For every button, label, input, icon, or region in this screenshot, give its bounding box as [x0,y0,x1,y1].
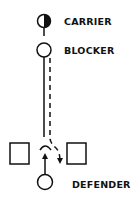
blocker-node [37,43,51,57]
carrier-node [38,15,51,28]
carrier-path [50,58,60,161]
carrier-label: CARRIER [64,16,112,27]
block-cap-icon [40,146,51,150]
defender-label: DEFENDER [72,179,131,190]
left-obstacle [10,143,29,164]
blocker-label: BLOCKER [64,45,115,56]
play-diagram: CARRIER BLOCKER DEFENDER [0,0,140,206]
right-obstacle [67,143,86,164]
defender-node [38,175,53,190]
